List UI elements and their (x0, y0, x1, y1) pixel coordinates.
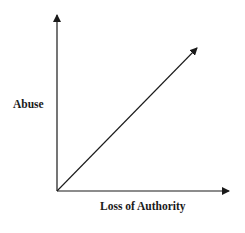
diagram-graphic (0, 0, 245, 233)
y-axis-label: Abuse (13, 99, 44, 111)
x-axis-label: Loss of Authority (100, 201, 186, 213)
trend-line-arrow (57, 48, 197, 191)
diagram-canvas: Abuse Loss of Authority (0, 0, 245, 233)
